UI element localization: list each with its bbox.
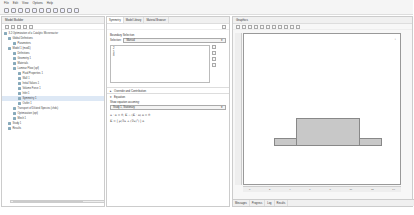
zoom-selection-icon[interactable] <box>212 63 216 67</box>
parameters-icon <box>13 42 16 45</box>
menu-options[interactable]: Options <box>32 1 42 5</box>
geometry-center-block[interactable] <box>296 118 360 146</box>
list-actions <box>212 45 216 83</box>
chevron-down-icon: ▾ <box>221 106 223 109</box>
settings-panel: Symmetry Model Library Material Browser … <box>106 16 230 207</box>
transport-icon <box>13 107 16 110</box>
node-icon <box>18 77 21 80</box>
undo-icon[interactable] <box>32 8 37 13</box>
model-builder-header: Model Builder <box>2 17 104 24</box>
boundary-selection-header: Boundary Selection <box>107 31 229 38</box>
zoom-out-icon[interactable] <box>242 25 246 29</box>
geometry-icon <box>13 57 16 60</box>
model-file-icon <box>4 32 7 35</box>
menu-help[interactable]: Help <box>47 1 53 5</box>
global-definitions-icon <box>8 37 11 40</box>
optimization-icon <box>13 112 16 115</box>
select-icon[interactable] <box>260 25 264 29</box>
study-icon <box>8 122 11 125</box>
settings-tabs: Symmetry Model Library Material Browser <box>107 17 229 24</box>
forward-icon[interactable] <box>11 25 15 29</box>
redo-icon[interactable] <box>39 8 44 13</box>
main-toolbar <box>0 6 413 15</box>
tab-messages[interactable]: Messages <box>233 200 250 206</box>
node-icon <box>18 97 21 100</box>
select-box-icon[interactable] <box>266 25 270 29</box>
geometry-right-block[interactable] <box>359 138 382 146</box>
selection-list-row: 2 5 8 <box>107 43 229 85</box>
selection-row: Selection: Manual ▾ <box>107 38 229 43</box>
chevron-down-icon: ▾ <box>221 39 223 42</box>
graphics-panel: Graphics ↕ 0 2 4 6 8 10 12 14 Messages P… <box>232 16 413 207</box>
study-dropdown[interactable]: Study 1, Stationary ▾ <box>110 105 226 110</box>
scrollbar-thumb[interactable] <box>13 201 83 202</box>
equation-line-2: K = [ μ(∇u + (∇u)ᵀ) ] n <box>107 118 229 124</box>
menu-edit[interactable]: Edit <box>13 1 18 5</box>
zoom-extents-icon[interactable] <box>254 25 258 29</box>
collapse-icon[interactable] <box>23 25 27 29</box>
back-icon[interactable] <box>5 25 9 29</box>
materials-icon <box>13 62 16 65</box>
show-icon[interactable] <box>29 25 33 29</box>
graphics-toolbar <box>233 24 412 30</box>
graphics-title: Graphics <box>236 18 248 22</box>
selection-dropdown[interactable]: Manual ▾ <box>123 38 226 43</box>
paste-icon[interactable] <box>53 8 58 13</box>
settings-toolbar <box>107 24 229 30</box>
expand-icon[interactable] <box>17 25 21 29</box>
node-icon <box>18 82 21 85</box>
node-icon <box>18 92 21 95</box>
study-row: Study 1, Stationary ▾ <box>107 105 229 110</box>
tab-log[interactable]: Log <box>265 200 274 206</box>
grid-icon[interactable] <box>290 25 294 29</box>
delete-icon[interactable] <box>60 8 65 13</box>
geometry-left-block[interactable] <box>274 138 297 146</box>
deselect-icon[interactable] <box>272 25 276 29</box>
graphics-canvas[interactable]: ↕ <box>243 33 401 185</box>
tab-progress[interactable]: Progress <box>250 200 265 206</box>
tab-symmetry[interactable]: Symmetry <box>107 17 124 23</box>
menu-view[interactable]: View <box>22 1 28 5</box>
help-icon[interactable] <box>222 25 226 29</box>
tab-model-library[interactable]: Model Library <box>124 17 145 23</box>
remove-selection-icon[interactable] <box>212 51 216 55</box>
bottom-tabs: Messages Progress Log Results <box>233 199 414 206</box>
collapse-arrow-icon: ▾ <box>110 95 112 99</box>
save-icon[interactable] <box>18 8 23 13</box>
add-icon[interactable] <box>67 8 72 13</box>
menu-file[interactable]: File <box>4 1 9 5</box>
add-selection-icon[interactable] <box>212 45 216 49</box>
definitions-icon <box>13 52 16 55</box>
mesh-icon <box>13 117 16 120</box>
boundary-item[interactable]: 8 <box>113 54 207 58</box>
hide-icon[interactable] <box>278 25 282 29</box>
views-icon[interactable] <box>284 25 288 29</box>
boundary-list[interactable]: 2 5 8 <box>110 45 210 83</box>
axis-orientation-icon: ↕ <box>395 37 397 41</box>
window-icon[interactable] <box>74 8 79 13</box>
print-icon[interactable] <box>25 8 30 13</box>
copy-selection-icon[interactable] <box>212 57 216 61</box>
model-builder-title: Model Builder <box>5 18 23 22</box>
node-icon <box>18 87 21 90</box>
open-icon[interactable] <box>11 8 16 13</box>
node-icon <box>18 102 21 105</box>
expand-arrow-icon: ▸ <box>110 89 112 93</box>
copy-icon[interactable] <box>46 8 51 13</box>
zoom-box-icon[interactable] <box>248 25 252 29</box>
model-tree: 3.2 Optimization of a Catalytic Microrea… <box>2 30 104 131</box>
tab-material-browser[interactable]: Material Browser <box>144 17 168 23</box>
tree-item-results[interactable]: Results <box>2 126 104 131</box>
results-icon <box>8 127 11 130</box>
new-icon[interactable] <box>4 8 9 13</box>
y-axis-ruler <box>235 33 242 185</box>
zoom-in-icon[interactable] <box>236 25 240 29</box>
tree-horizontal-scrollbar[interactable] <box>10 200 105 203</box>
image-icon[interactable] <box>296 25 300 29</box>
laminar-flow-icon <box>13 67 16 70</box>
x-axis-ruler: 0 2 4 6 8 10 12 14 <box>243 186 401 192</box>
tab-results[interactable]: Results <box>275 200 289 206</box>
node-icon <box>18 72 21 75</box>
model-builder-panel: Model Builder 3.2 Optimization of a Cata… <box>1 16 105 207</box>
selection-label: Selection: <box>110 39 121 42</box>
